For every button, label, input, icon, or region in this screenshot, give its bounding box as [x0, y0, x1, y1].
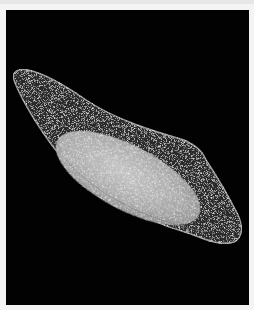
micrograph-panel	[6, 10, 249, 305]
top-strip	[0, 0, 254, 4]
specimen-illustration	[6, 10, 249, 305]
